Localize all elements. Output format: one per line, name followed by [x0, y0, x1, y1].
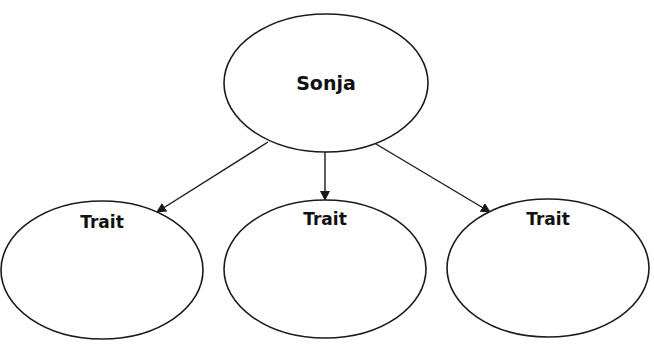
center-node-label: Sonja	[296, 72, 356, 94]
trait-node-left: Trait	[1, 201, 203, 339]
arrow-left	[157, 142, 268, 212]
diagram-canvas: Sonja Trait Trait Trait	[0, 0, 654, 351]
center-node: Sonja	[224, 14, 428, 152]
trait-label-middle: Trait	[303, 209, 347, 229]
trait-node-right: Trait	[447, 199, 649, 337]
arrow-right	[376, 144, 490, 212]
trait-node-middle: Trait	[224, 200, 426, 338]
trait-label-left: Trait	[80, 212, 124, 232]
trait-label-right: Trait	[526, 209, 570, 229]
